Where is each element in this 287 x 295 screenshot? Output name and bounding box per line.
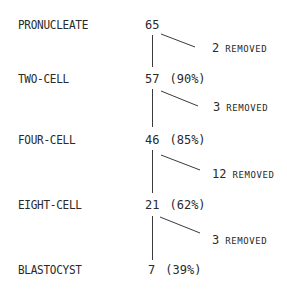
- stage-count-two-cell: 57(90%): [145, 72, 206, 86]
- removed-number: 3: [213, 100, 220, 114]
- removed-number: 12: [212, 167, 226, 181]
- stage-label-eight-cell: EIGHT-CELL: [18, 198, 82, 212]
- count-value: 46: [145, 133, 159, 147]
- removed-number: 3: [212, 233, 219, 247]
- count-value: 21: [145, 198, 159, 212]
- flow-line-removed: [161, 155, 200, 170]
- stage-label-two-cell: TWO-CELL: [18, 72, 69, 86]
- count-value: 7: [148, 263, 155, 277]
- removed-label-3: 12REMOVED: [212, 167, 275, 181]
- removed-word: REMOVED: [226, 103, 268, 113]
- removed-word: REMOVED: [232, 170, 274, 180]
- count-percent: (90%): [169, 72, 205, 86]
- stage-count-pronucleate: 65: [145, 18, 159, 32]
- count-percent: (85%): [169, 133, 205, 147]
- flow-line-removed: [161, 34, 195, 47]
- flow-line-removed: [161, 91, 198, 106]
- stage-label-four-cell: FOUR-CELL: [18, 133, 75, 147]
- stage-label-pronucleate: PRONUCLEATE: [18, 18, 88, 32]
- count-percent: (39%): [165, 263, 201, 277]
- removed-label-2: 3REMOVED: [213, 100, 268, 114]
- count-value: 57: [145, 72, 159, 86]
- count-percent: (62%): [169, 198, 205, 212]
- removed-label-4: 3REMOVED: [212, 233, 267, 247]
- removed-word: REMOVED: [225, 44, 267, 54]
- removed-word: REMOVED: [225, 236, 267, 246]
- removed-number: 2: [212, 41, 219, 55]
- removed-label-1: 2REMOVED: [212, 41, 267, 55]
- count-value: 65: [145, 18, 159, 32]
- stage-count-blastocyst: 7(39%): [148, 263, 201, 277]
- stage-count-eight-cell: 21(62%): [145, 198, 206, 212]
- flow-line-removed: [160, 217, 200, 233]
- stage-label-blastocyst: BLASTOCYST: [18, 263, 82, 277]
- stage-count-four-cell: 46(85%): [145, 133, 206, 147]
